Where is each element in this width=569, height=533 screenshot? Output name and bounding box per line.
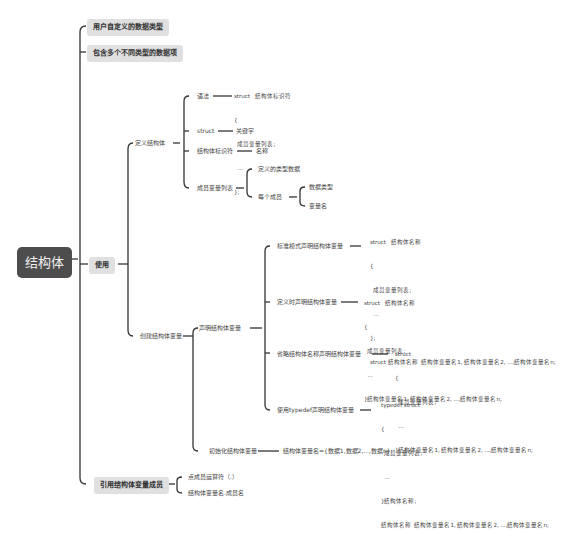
node-keyword-desc[interactable]: 关键字: [236, 128, 254, 134]
branch-multiple-data-items[interactable]: 包含多个不同类型的数据项: [87, 45, 183, 62]
node-data-type[interactable]: 数据类型: [309, 184, 333, 190]
node-declare-at-define[interactable]: 定义时声明结构体变量: [277, 299, 337, 305]
branch-member-reference[interactable]: 引用结构体变量成员: [94, 477, 169, 494]
node-init-struct-variable[interactable]: 初始化结构体变量: [209, 448, 257, 454]
branch-usage[interactable]: 使用: [89, 257, 115, 274]
code-typedef-declare: typedef struct { 成员变量列表; ... }结构体名称; 结构体…: [381, 385, 549, 533]
node-declare-struct-variable[interactable]: 声明结构体变量: [199, 325, 241, 331]
node-create-struct-variable[interactable]: 创建结构体变量: [140, 333, 182, 339]
node-syntax[interactable]: 语法: [197, 93, 209, 99]
node-member-list[interactable]: 成员变量列表: [197, 185, 233, 191]
node-each-member[interactable]: 每个成员: [258, 194, 282, 200]
node-variable-name[interactable]: 变量名: [309, 203, 327, 209]
node-member-access-syntax[interactable]: 结构体变量名.成员名: [188, 490, 244, 496]
node-init-syntax[interactable]: 结构体变量名={数据1,数据2,...,数据n};: [283, 448, 393, 454]
code-syntax: struct 结构体标识符 { 成员变量列表; ... };: [234, 76, 291, 204]
root-node[interactable]: 结构体: [17, 247, 72, 278]
node-dot-operator[interactable]: 点成员运算符（.）: [188, 474, 238, 480]
node-standard-declare[interactable]: 标准模式声明结构体变量: [277, 243, 343, 249]
branch-user-defined-type[interactable]: 用户自定义的数据类型: [87, 19, 169, 36]
node-defined-type-data[interactable]: 定义的类型数据: [258, 166, 300, 172]
node-typedef-declare[interactable]: 使用typedef声明结构体变量: [277, 407, 354, 413]
node-struct-identifier[interactable]: 结构体标识符: [197, 148, 233, 154]
node-anonymous-declare[interactable]: 省略结构体名称声明结构体变量: [277, 351, 361, 357]
node-name-desc[interactable]: 名称: [256, 148, 268, 154]
node-struct-keyword[interactable]: struct: [197, 128, 214, 134]
node-define-struct[interactable]: 定义结构体: [135, 140, 165, 146]
